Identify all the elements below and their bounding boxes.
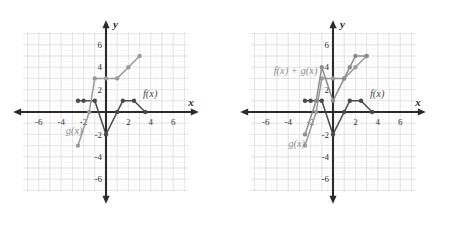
f-label: f(x) [143, 88, 158, 100]
data-point [364, 54, 368, 58]
data-point [342, 76, 346, 80]
data-point [320, 99, 324, 103]
data-point [76, 99, 80, 103]
graph-f-plus-g: -6-4-2246642-2-4-6xyf(x) + g(x)f(x)g(x) [227, 0, 453, 229]
y-axis-name: y [338, 18, 345, 30]
g-label: g(x) [66, 125, 83, 137]
x-axis-name: x [414, 96, 421, 108]
data-point [115, 110, 119, 114]
data-point [308, 99, 312, 103]
data-point [331, 76, 335, 80]
y-tick-label: 2 [98, 85, 103, 95]
axes [13, 20, 199, 203]
x-tick-label: 4 [149, 117, 154, 127]
data-point [104, 76, 108, 80]
data-point [348, 65, 352, 69]
data-point [348, 99, 352, 103]
x-tick-label: -6 [262, 117, 270, 127]
data-point [331, 99, 335, 103]
data-point [331, 132, 335, 136]
data-point [121, 99, 125, 103]
coordinate-plane-left: -6-4-2246642-2-4-6xyf(x)g(x) [0, 0, 226, 229]
data-point [137, 54, 141, 58]
y-tick-label: 6 [98, 40, 103, 50]
data-point [353, 65, 357, 69]
y-tick-label: -6 [322, 174, 330, 184]
x-axis-arrow-right [191, 108, 199, 115]
y-tick-label: 4 [98, 62, 103, 72]
data-point [303, 99, 307, 103]
x-tick-label: -6 [35, 117, 43, 127]
data-point [104, 132, 108, 136]
x-axis-arrow-left [13, 108, 21, 115]
data-point [93, 99, 97, 103]
x-tick-label: 2 [353, 117, 358, 127]
data-point [132, 99, 136, 103]
y-tick-label: -4 [322, 152, 330, 162]
x-tick-label: -4 [284, 117, 292, 127]
x-tick-label: 6 [398, 117, 403, 127]
x-tick-label: 6 [171, 117, 176, 127]
data-point [314, 110, 318, 114]
y-tick-label: -4 [95, 152, 103, 162]
f-label: f(x) [370, 88, 385, 100]
x-tick-label: 2 [126, 117, 131, 127]
data-point [93, 76, 97, 80]
y-tick-label: 4 [325, 62, 330, 72]
y-tick-label: -2 [322, 130, 330, 140]
y-axis-arrow-down [102, 196, 109, 204]
data-point [359, 99, 363, 103]
data-point [143, 110, 147, 114]
data-point [81, 99, 85, 103]
y-tick-label: 6 [325, 40, 330, 50]
data-point [342, 110, 346, 114]
y-axis-name: y [111, 18, 118, 30]
y-axis-arrow-up [329, 20, 336, 28]
data-point [320, 65, 324, 69]
y-axis-arrow-up [102, 20, 109, 28]
data-point [87, 110, 91, 114]
sum-label: f(x) + g(x) [274, 65, 318, 77]
data-point [126, 65, 130, 69]
data-point [353, 54, 357, 58]
x-tick-label: -4 [57, 117, 65, 127]
data-point [314, 99, 318, 103]
data-point [115, 76, 119, 80]
graph-f-and-g: -6-4-2246642-2-4-6xyf(x)g(x) [0, 0, 226, 229]
data-point [303, 132, 307, 136]
axes [240, 20, 426, 203]
y-tick-label: -6 [95, 174, 103, 184]
x-axis-arrow-left [240, 108, 248, 115]
y-axis-arrow-down [329, 196, 336, 204]
data-point [76, 143, 80, 147]
figure-root: -6-4-2246642-2-4-6xyf(x)g(x)-6-4-2246642… [0, 0, 453, 229]
y-tick-label: -2 [95, 130, 103, 140]
x-axis-arrow-right [418, 108, 426, 115]
g-label: g(x) [288, 138, 305, 150]
coordinate-plane-right: -6-4-2246642-2-4-6xyf(x) + g(x)f(x)g(x) [227, 0, 453, 229]
data-point [370, 110, 374, 114]
x-tick-label: 4 [376, 117, 381, 127]
x-axis-name: x [187, 96, 194, 108]
